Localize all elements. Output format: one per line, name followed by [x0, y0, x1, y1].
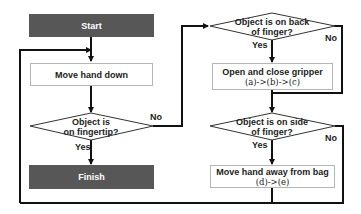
decision-on-fingertip-line1: Object is: [72, 117, 110, 127]
edge-label-side-yes: Yes: [252, 140, 268, 150]
edge-label-fingertip-no: No: [150, 112, 162, 122]
decision-on-back-line2: of finger?: [251, 27, 293, 37]
edge-fingertip-no-to-back: [153, 26, 208, 126]
gripper-line1: Open and close gripper: [222, 67, 323, 77]
start-label: Start: [81, 21, 102, 31]
move-away-line2: (d)->(e): [256, 177, 290, 187]
move-hand-down-label: Move hand down: [55, 70, 128, 80]
decision-on-fingertip: Object is on fingertip?: [40, 114, 142, 140]
decision-on-side-line2: of finger?: [251, 127, 293, 137]
decision-on-back-line1: Object is on back: [235, 17, 310, 27]
decision-on-back: Object is on back of finger?: [220, 14, 324, 40]
edge-label-fingertip-yes: Yes: [75, 142, 91, 152]
open-close-gripper-node: Open and close gripper (a)->(b)->(c): [212, 63, 333, 90]
edge-label-side-no: No: [325, 133, 337, 143]
finish-label: Finish: [78, 172, 105, 182]
move-hand-down-node: Move hand down: [30, 63, 153, 86]
move-hand-away-node: Move hand away from bag (d)->(e): [210, 165, 335, 188]
gripper-line2: (a)->(b)->(c): [245, 77, 300, 87]
decision-on-side-line1: Object is on side: [236, 117, 308, 127]
edge-label-back-no: No: [325, 33, 337, 43]
decision-on-fingertip-line2: on fingertip?: [64, 127, 119, 137]
move-away-line1: Move hand away from bag: [216, 167, 329, 177]
decision-on-side: Object is on side of finger?: [220, 114, 324, 140]
finish-node: Finish: [29, 165, 154, 189]
edge-label-back-yes: Yes: [252, 40, 268, 50]
start-node: Start: [29, 14, 154, 37]
